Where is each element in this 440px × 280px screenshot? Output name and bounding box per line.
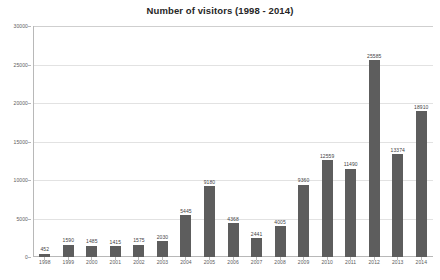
y-tick-mark <box>28 219 31 220</box>
bar-value-label: 9180 <box>204 179 216 185</box>
x-tick-label: 1998 <box>33 259 57 265</box>
bar-slot: 12559 <box>315 26 339 257</box>
bar[interactable]: 1575 <box>133 245 144 257</box>
bar-value-label: 11490 <box>344 161 358 167</box>
bar-value-label: 5445 <box>180 208 192 214</box>
bar[interactable]: 4368 <box>228 223 239 257</box>
y-tick-mark <box>28 142 31 143</box>
x-tick-label: 2000 <box>80 259 104 265</box>
bar-value-label: 1575 <box>133 237 145 243</box>
x-tick-label: 2005 <box>198 259 222 265</box>
x-axis: 1998199920002001200220032004200520062007… <box>33 259 433 265</box>
bars-container: 4521590148514151575203054459180436824414… <box>33 26 433 257</box>
bar[interactable]: 13374 <box>392 154 403 257</box>
bar[interactable]: 2030 <box>157 241 168 257</box>
bar[interactable]: 2441 <box>251 238 262 257</box>
y-tick-label: 20000 <box>14 100 28 106</box>
y-axis: 050001000015000200002500030000 <box>0 26 31 257</box>
bar-slot: 5445 <box>174 26 198 257</box>
x-tick-label: 2001 <box>104 259 128 265</box>
bar-slot: 2441 <box>245 26 269 257</box>
bar-value-label: 1485 <box>86 238 98 244</box>
x-tick-label: 2013 <box>386 259 410 265</box>
bar-slot: 4368 <box>221 26 245 257</box>
y-tick-mark <box>28 180 31 181</box>
bar-slot: 18910 <box>410 26 434 257</box>
bar-value-label: 1590 <box>63 237 75 243</box>
bar[interactable]: 1485 <box>86 246 97 257</box>
x-tick-label: 2011 <box>339 259 363 265</box>
bar-value-label: 13374 <box>391 147 405 153</box>
x-tick-label: 1999 <box>57 259 81 265</box>
bar-value-label: 2030 <box>157 234 169 240</box>
x-tick-label: 2010 <box>315 259 339 265</box>
bar-value-label: 4368 <box>227 216 239 222</box>
chart-title: Number of visitors (1998 - 2014) <box>0 5 440 16</box>
bar-slot: 1575 <box>127 26 151 257</box>
bar[interactable]: 1590 <box>63 245 74 257</box>
bar-slot: 9180 <box>198 26 222 257</box>
bar-slot: 452 <box>33 26 57 257</box>
bar[interactable]: 9360 <box>298 185 309 257</box>
bar-slot: 4005 <box>268 26 292 257</box>
bar[interactable]: 9180 <box>204 186 215 257</box>
y-tick-label: 25000 <box>14 62 28 68</box>
bar-slot: 11490 <box>339 26 363 257</box>
bar-value-label: 12559 <box>320 153 334 159</box>
y-tick-mark <box>28 65 31 66</box>
bar-slot: 1590 <box>57 26 81 257</box>
y-tick-label: 5000 <box>16 216 28 222</box>
bar-value-label: 25585 <box>367 53 381 59</box>
x-tick-label: 2009 <box>292 259 316 265</box>
x-tick-label: 2004 <box>174 259 198 265</box>
bar[interactable]: 1415 <box>110 246 121 257</box>
bar-slot: 25585 <box>362 26 386 257</box>
bar[interactable]: 25585 <box>369 60 380 257</box>
bar-slot: 9360 <box>292 26 316 257</box>
x-tick-label: 2006 <box>221 259 245 265</box>
bar-value-label: 1415 <box>110 239 122 245</box>
y-tick-label: 30000 <box>14 23 28 29</box>
y-tick-label: 15000 <box>14 139 28 145</box>
bar-chart: Number of visitors (1998 - 2014) 0500010… <box>0 0 440 280</box>
y-tick-label: 10000 <box>14 177 28 183</box>
x-tick-label: 2003 <box>151 259 175 265</box>
bar-value-label: 4005 <box>274 219 286 225</box>
x-tick-label: 2012 <box>362 259 386 265</box>
x-tick-label: 2002 <box>127 259 151 265</box>
x-tick-label: 2014 <box>410 259 434 265</box>
y-tick-mark <box>28 103 31 104</box>
bar-slot: 1415 <box>104 26 128 257</box>
y-tick-mark <box>28 257 31 258</box>
bar[interactable]: 18910 <box>416 111 427 257</box>
x-tick-label: 2008 <box>268 259 292 265</box>
bar-value-label: 9360 <box>298 177 310 183</box>
bar-value-label: 2441 <box>251 231 263 237</box>
bar[interactable]: 11490 <box>345 169 356 257</box>
x-tick-label: 2007 <box>245 259 269 265</box>
bar[interactable]: 4005 <box>275 226 286 257</box>
bar[interactable]: 12559 <box>322 160 333 257</box>
bar[interactable]: 5445 <box>180 215 191 257</box>
bar-slot: 1485 <box>80 26 104 257</box>
bar-value-label: 18910 <box>414 104 428 110</box>
y-tick-mark <box>28 26 31 27</box>
bar-value-label: 452 <box>40 246 49 252</box>
bar-slot: 2030 <box>151 26 175 257</box>
bar-slot: 13374 <box>386 26 410 257</box>
